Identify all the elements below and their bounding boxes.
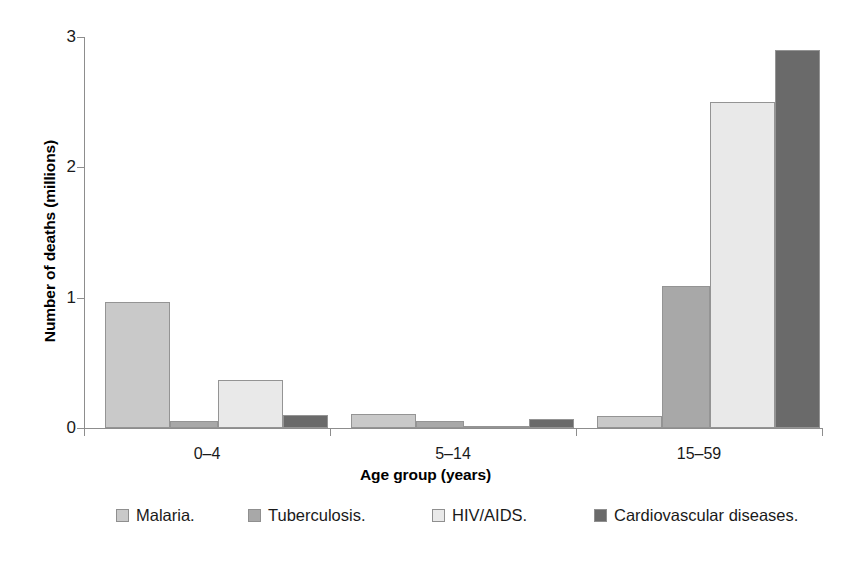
legend-label: Malaria.: [136, 506, 195, 524]
bar: [662, 286, 710, 428]
y-tick-mark-1: [77, 298, 85, 299]
x-group-label-0-4: 0–4: [137, 445, 277, 463]
legend-item: HIV/AIDS.: [432, 506, 527, 524]
bar: [416, 421, 464, 428]
legend-item: Cardiovascular diseases.: [594, 506, 798, 524]
bar: [710, 102, 775, 428]
bar: [283, 415, 328, 428]
x-group-label-15-59: 15–59: [629, 445, 769, 463]
chart-legend: Malaria.Tuberculosis.HIV/AIDS.Cardiovasc…: [0, 506, 851, 532]
x-group-separator-2: [330, 428, 331, 436]
x-group-separator-1: [84, 428, 85, 436]
legend-swatch-icon: [116, 509, 129, 522]
bar: [464, 426, 529, 428]
bar: [170, 421, 218, 428]
bar: [529, 419, 574, 428]
legend-item: Tuberculosis.: [248, 506, 366, 524]
legend-label: Cardiovascular diseases.: [614, 506, 798, 524]
y-tick-mark-2: [77, 167, 85, 168]
y-tick-label-1: 1: [46, 289, 76, 306]
legend-swatch-icon: [432, 509, 445, 522]
legend-swatch-icon: [594, 509, 607, 522]
y-tick-label-3: 3: [46, 28, 76, 45]
legend-item: Malaria.: [116, 506, 195, 524]
x-group-separator-4: [822, 428, 823, 436]
bar: [218, 380, 283, 428]
y-tick-mark-3: [77, 37, 85, 38]
bar: [597, 416, 662, 428]
bar: [351, 414, 416, 428]
x-group-separator-3: [576, 428, 577, 436]
legend-swatch-icon: [248, 509, 261, 522]
y-axis-line: [84, 37, 85, 429]
x-group-label-5-14: 5–14: [383, 445, 523, 463]
bar: [775, 50, 820, 428]
bar: [105, 302, 170, 428]
x-axis-title: Age group (years): [0, 466, 851, 484]
legend-label: Tuberculosis.: [268, 506, 366, 524]
y-tick-label-2: 2: [46, 158, 76, 175]
x-axis-line: [84, 428, 822, 429]
y-tick-label-0: 0: [46, 419, 76, 436]
legend-label: HIV/AIDS.: [452, 506, 527, 524]
y-axis-title: Number of deaths (millions): [41, 41, 59, 441]
bar-chart-figure: Number of deaths (millions) 3 2 1 0 0–4 …: [0, 0, 851, 562]
